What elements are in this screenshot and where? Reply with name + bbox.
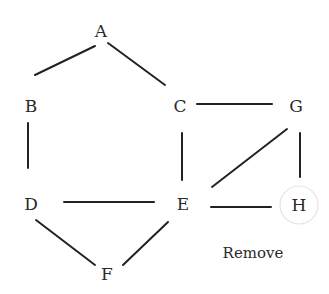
edge-a-c — [108, 43, 165, 85]
node-b: B — [25, 96, 38, 116]
graph-canvas: ABCGDEHF Remove — [0, 0, 329, 294]
edges-layer — [28, 43, 300, 265]
node-h: H — [292, 195, 307, 215]
remove-caption: Remove — [223, 244, 284, 262]
node-f: F — [101, 264, 113, 284]
node-d: D — [24, 194, 38, 214]
edge-a-b — [35, 46, 95, 75]
edge-f-e — [123, 222, 168, 265]
node-c: C — [173, 96, 186, 116]
node-a: A — [94, 21, 108, 41]
node-e: E — [177, 194, 189, 214]
node-g: G — [289, 96, 303, 116]
edge-d-f — [36, 220, 95, 265]
edge-g-e — [212, 129, 287, 187]
graph-diagram: ABCGDEHF Remove — [0, 0, 329, 294]
